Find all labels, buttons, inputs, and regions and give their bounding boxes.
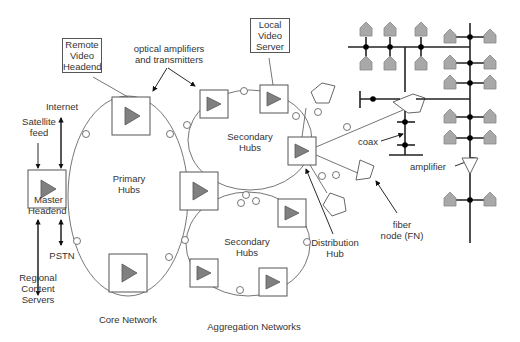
network-diagram: Remote Video Headend Local Video Server … — [0, 0, 520, 342]
text-line: Headend — [63, 61, 101, 72]
text-line: Master — [28, 194, 64, 205]
text-line: Satellite — [20, 116, 58, 127]
primary-secondary-junction-amp — [180, 172, 218, 210]
text-line: Hubs — [217, 247, 277, 258]
core-network-label: Core Network — [98, 314, 158, 325]
text-line: node (FN) — [380, 230, 424, 241]
text-line: Distribution — [310, 237, 360, 248]
primary-hubs-label: Primary Hubs — [107, 173, 151, 195]
text-line: Video — [251, 30, 289, 41]
local-video-amp — [260, 85, 288, 113]
pstn-label: PSTN — [47, 250, 77, 261]
primary-amp-bottom — [109, 254, 147, 292]
satellite-feed-label: Satellite feed — [20, 116, 58, 138]
internet-label: Internet — [44, 101, 80, 112]
regional-content-servers-label: Regional Content Servers — [14, 272, 62, 305]
text-line: Video — [63, 50, 101, 61]
houses — [360, 22, 496, 206]
text-line: Hub — [310, 248, 360, 259]
text-line: and transmitters — [133, 54, 205, 65]
secondary-amp — [259, 268, 287, 296]
distribution-hub-label: Distribution Hub — [310, 237, 360, 259]
text-line: Primary — [107, 173, 151, 184]
local-video-server-label: Local Video Server — [250, 18, 290, 53]
text-line: Hubs — [107, 184, 151, 195]
coax-label: coax — [356, 136, 380, 147]
text-line: Secondary — [220, 131, 280, 142]
text-line: fiber — [380, 219, 424, 230]
secondary-hubs-bottom-label: Secondary Hubs — [217, 236, 277, 258]
text-line: Hubs — [220, 142, 280, 153]
optical-amplifiers-label: optical amplifiers and transmitters — [133, 43, 205, 65]
text-line: Remote — [63, 39, 101, 50]
text-line: optical amplifiers — [133, 43, 205, 54]
secondary-hubs-top-label: Secondary Hubs — [220, 131, 280, 153]
amplifier-label: amplifier — [401, 161, 455, 172]
text-line: Headend — [28, 205, 64, 216]
secondary-amp — [278, 199, 306, 227]
master-headend-label: Master Headend — [28, 194, 64, 216]
text-line: Content — [14, 283, 62, 294]
text-line: Regional — [14, 272, 62, 283]
text-line: Secondary — [217, 236, 277, 247]
secondary-amp — [200, 90, 228, 118]
remote-video-headend-label: Remote Video Headend — [62, 38, 102, 73]
text-line: feed — [20, 127, 58, 138]
text-line: Server — [251, 41, 289, 52]
text-line: Servers — [14, 294, 62, 305]
aggregation-networks-label: Aggregation Networks — [202, 321, 306, 332]
secondary-amp — [190, 259, 218, 287]
fiber-nodes — [311, 83, 425, 216]
fiber-node-label: fiber node (FN) — [380, 219, 424, 241]
primary-amp-top — [112, 97, 150, 135]
text-line: Local — [251, 19, 289, 30]
distribution-hub-amp — [288, 137, 316, 165]
coax-amplifier — [462, 158, 478, 174]
